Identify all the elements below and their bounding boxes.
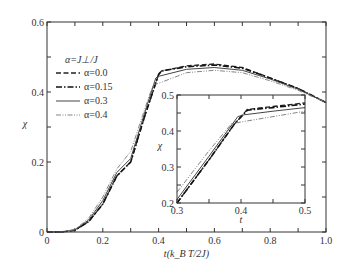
main-x-tick-label: 0.8	[264, 235, 277, 246]
main-y-tick-label: 0	[39, 227, 44, 238]
main-y-tick-label: 0.2	[32, 157, 45, 168]
main-x-tick-label: 0.4	[152, 235, 165, 246]
inset-y-tick-label: 0.2	[162, 198, 175, 209]
legend-entry: α=0.3	[84, 95, 107, 106]
main-x-tick-label: 0.6	[208, 235, 221, 246]
inset-y-tick-label: 0.5	[162, 90, 175, 101]
inset-x-axis-title: t	[240, 214, 243, 225]
inset-y-tick-label: 0.4	[162, 126, 175, 137]
inset-y-tick-label: 0.3	[162, 162, 175, 173]
chart-canvas: 00.20.40.60.81.000.20.40.6t(k_B T/2J)χα=…	[0, 0, 352, 272]
legend-entry: α=0.15	[84, 81, 112, 92]
main-y-axis-title: χ	[22, 118, 28, 129]
main-x-axis-title: t(k_B T/2J)	[164, 248, 210, 260]
legend-entry: α=0.0	[84, 67, 107, 78]
inset-y-axis-title: χ	[157, 140, 163, 151]
inset-plot: 0.30.40.50.20.30.40.5tχ	[157, 90, 311, 226]
main-x-tick-label: 0	[45, 235, 50, 246]
main-x-tick-label: 0.2	[97, 235, 110, 246]
inset-x-tick-label: 0.5	[299, 205, 312, 216]
legend-title: α=J⊥/J	[65, 54, 98, 65]
legend: α=J⊥/Jα=0.0α=0.15α=0.3α=0.4	[56, 54, 112, 120]
main-x-tick-label: 1.0	[320, 235, 333, 246]
main-y-tick-label: 0.4	[32, 87, 45, 98]
main-y-tick-label: 0.6	[32, 17, 45, 28]
legend-entry: α=0.4	[84, 109, 107, 120]
